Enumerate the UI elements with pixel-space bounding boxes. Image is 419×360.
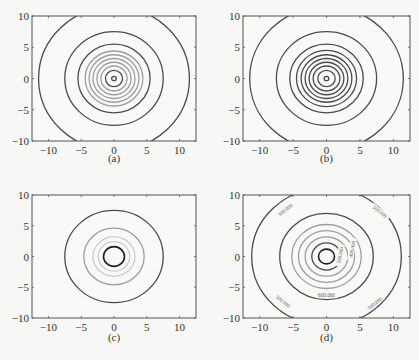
plot-area bbox=[243, 16, 410, 141]
y-tick-label: 0 bbox=[24, 73, 30, 85]
y-tick-label: 0 bbox=[24, 251, 30, 263]
x-tick-label: 5 bbox=[357, 144, 363, 156]
x-tick-label: 10 bbox=[388, 321, 400, 333]
y-tick-label: 10 bbox=[18, 10, 30, 22]
y-tick-label: −5 bbox=[228, 281, 240, 293]
panel-d: 500.000500.000500.000500.000600.000300.0… bbox=[223, 188, 410, 344]
x-tick-label: 5 bbox=[144, 321, 150, 333]
panel-b: −10−50510−10−50510(b) bbox=[223, 7, 410, 165]
y-tick-label: −10 bbox=[12, 312, 30, 324]
contour-label: 600.000 bbox=[318, 292, 335, 298]
x-tick-label: −5 bbox=[287, 321, 299, 333]
x-tick-label: −5 bbox=[287, 144, 299, 156]
panel-caption: (c) bbox=[108, 331, 121, 344]
y-tick-label: 10 bbox=[18, 189, 30, 201]
y-tick-label: 10 bbox=[229, 10, 241, 22]
y-tick-label: 5 bbox=[24, 41, 30, 53]
y-tick-label: −10 bbox=[223, 135, 241, 147]
panel-caption: (b) bbox=[320, 152, 333, 165]
x-tick-label: −10 bbox=[40, 144, 58, 156]
x-tick-label: −10 bbox=[251, 321, 269, 333]
x-tick-label: −5 bbox=[75, 144, 87, 156]
y-tick-label: 0 bbox=[235, 251, 241, 263]
y-tick-label: 5 bbox=[235, 41, 241, 53]
y-tick-label: −10 bbox=[12, 135, 30, 147]
x-tick-label: 10 bbox=[388, 144, 400, 156]
panel-caption: (d) bbox=[320, 331, 333, 344]
y-tick-label: 5 bbox=[24, 220, 30, 232]
x-tick-label: −10 bbox=[251, 144, 269, 156]
panel-a: −10−50510−10−50510(a) bbox=[12, 7, 196, 165]
plot-area bbox=[32, 16, 196, 141]
x-tick-label: 10 bbox=[174, 321, 186, 333]
x-tick-label: −5 bbox=[75, 321, 87, 333]
x-tick-label: 10 bbox=[174, 144, 186, 156]
x-tick-label: 5 bbox=[144, 144, 150, 156]
y-tick-label: 0 bbox=[235, 73, 241, 85]
panel-c: −10−50510−10−50510(c) bbox=[12, 189, 196, 344]
y-tick-label: 5 bbox=[235, 220, 241, 232]
panel-caption: (a) bbox=[108, 152, 121, 165]
y-tick-label: −5 bbox=[17, 104, 29, 116]
y-tick-label: −5 bbox=[228, 104, 240, 116]
contour-figure: −10−50510−10−50510(a)−10−50510−10−50510(… bbox=[0, 0, 419, 360]
y-tick-label: −5 bbox=[17, 281, 29, 293]
y-tick-label: 10 bbox=[229, 189, 241, 201]
y-tick-label: −10 bbox=[223, 312, 241, 324]
plot-area bbox=[32, 195, 196, 318]
x-tick-label: 5 bbox=[357, 321, 363, 333]
x-tick-label: −10 bbox=[40, 321, 58, 333]
